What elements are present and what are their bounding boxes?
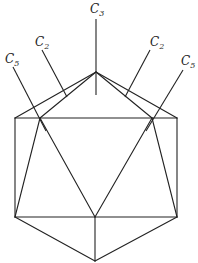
c2-right-axis-line — [125, 50, 150, 97]
c5-right-label: C5 — [181, 54, 195, 70]
c5-left-axis-line — [13, 67, 46, 131]
axis-labels: C3 C2 C2 C5 C5 — [5, 2, 195, 70]
c3-label: C3 — [90, 2, 104, 18]
c5-left-label: C5 — [5, 52, 19, 68]
c2-left-axis-line — [42, 50, 67, 97]
icosahedron-diagram: C3 C2 C2 C5 C5 — [0, 0, 198, 263]
icosahedron-edges — [15, 72, 177, 261]
c2-right-label: C2 — [150, 35, 164, 51]
c2-left-label: C2 — [35, 35, 49, 51]
